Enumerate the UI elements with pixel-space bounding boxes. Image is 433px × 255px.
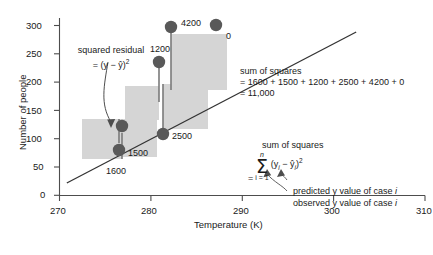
squared-residual-line2: = (y − ŷ)2 (63, 56, 159, 71)
sum-of-squares-numeric: sum of squares = 1600 + 1500 + 1200 + 25… (240, 66, 404, 99)
y-tick-label-300: 300 (26, 20, 42, 31)
x-tick-label-280: 280 (141, 205, 157, 216)
squared-residual-arrow (104, 62, 115, 128)
squared-residual-line1: squared residual (63, 45, 159, 56)
data-point-1500 (113, 144, 125, 156)
callout-observed-italic: i (395, 198, 397, 208)
point-label-0: 0 (226, 31, 231, 41)
y-tick-label-100: 100 (26, 133, 42, 144)
formula-body: (yi − ŷi)2 (269, 151, 303, 183)
formula-lower-limit: i = 1 (255, 174, 268, 183)
data-point-1600 (116, 120, 128, 132)
sum-of-squares-formula: sum of squares (248, 140, 324, 151)
y-tick-label-250: 250 (26, 48, 42, 59)
x-tick-label-290: 290 (233, 205, 249, 216)
y-tick-label-200: 200 (26, 76, 42, 87)
formula-sigma-icon: Σ (255, 159, 268, 174)
x-tick-label-270: 270 (50, 205, 66, 216)
callout-observed-text: observed y value of case (293, 198, 395, 208)
squared-residual-annotation: squared residual = (y − ŷ)2 (63, 45, 159, 71)
point-label-1500: 1500 (128, 148, 148, 158)
data-point-2500 (157, 128, 169, 140)
residual-square-1200 (125, 86, 159, 120)
callout-observed: observed y value of case i (293, 198, 397, 209)
y-tick-label-0: 0 (40, 189, 45, 200)
formula-table: = n Σ i = 1 (yi − ŷi)2 (248, 151, 303, 183)
data-point-4200 (165, 21, 177, 33)
point-label-2500: 2500 (172, 131, 192, 141)
residual-square-4200 (171, 34, 227, 90)
point-label-1600: 1600 (106, 166, 126, 176)
regression-sum-of-squares-figure: 300 250 200 150 100 50 0 270 280 290 300… (0, 0, 433, 255)
callout-predicted: predicted y value of case i (293, 186, 397, 197)
callout-predicted-italic: i (395, 186, 397, 196)
squared-residual-expression: = (y − ŷ) (93, 60, 126, 70)
sum-of-squares-formula-expression: = n Σ i = 1 (yi − ŷi)2 (248, 151, 303, 183)
formula-minus: − ŷ (280, 159, 295, 169)
formula-sigma-stack: n Σ i = 1 (255, 151, 268, 183)
chart-canvas (0, 0, 433, 255)
formula-equals: = (248, 151, 255, 183)
squared-residual-exponent: 2 (126, 58, 130, 65)
callout-predicted-text: predicted y value of case (293, 186, 395, 196)
formula-exponent: 2 (299, 157, 303, 164)
residual-square-2500 (163, 84, 208, 129)
y-tick-label-50: 50 (33, 161, 44, 172)
sum-of-squares-numeric-total: = 11,000 (240, 88, 404, 99)
y-axis-title: Number of people (17, 74, 28, 150)
x-tick-label-310: 310 (416, 205, 432, 216)
data-point-0 (210, 19, 222, 31)
sum-of-squares-numeric-terms: = 1600 + 1500 + 1200 + 2500 + 4200 + 0 (240, 77, 404, 88)
sum-of-squares-numeric-title: sum of squares (240, 66, 404, 77)
sum-of-squares-formula-title: sum of squares (248, 140, 324, 151)
x-axis-title: Temperature (K) (194, 219, 263, 230)
y-tick-label-150: 150 (26, 105, 42, 116)
point-label-4200: 4200 (181, 18, 201, 28)
